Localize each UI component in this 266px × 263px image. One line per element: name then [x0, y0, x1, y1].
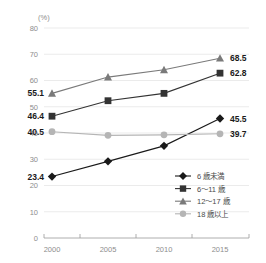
- legend-label-1: 6～11 歳: [197, 184, 226, 194]
- y-axis-tick-label: 30: [30, 155, 38, 164]
- data-point-marker-diamond: [160, 142, 168, 150]
- series-start-value-label: 23.4: [27, 172, 44, 182]
- legend-label-3: 18 歳以上: [197, 209, 229, 219]
- series-start-value-label: 46.4: [27, 111, 44, 121]
- x-axis-tick-label: 2000: [44, 245, 61, 254]
- data-point-marker-circle: [49, 128, 56, 135]
- x-axis-tick-label: 2005: [100, 245, 117, 254]
- data-point-marker-circle: [105, 132, 112, 139]
- data-point-marker-square: [49, 113, 56, 120]
- y-axis-tick-label: 10: [30, 208, 38, 217]
- data-point-marker-circle: [180, 211, 186, 217]
- data-point-marker-circle: [161, 131, 168, 138]
- y-axis-tick-label: 50: [30, 103, 38, 112]
- series-start-value-label: 55.1: [27, 88, 44, 98]
- series-line-1: [52, 73, 220, 116]
- data-point-marker-square: [161, 90, 168, 97]
- y-axis-tick-label: 70: [30, 50, 38, 59]
- line-chart: 01020304050607080(%)200020052010201523.4…: [0, 0, 266, 263]
- y-axis-tick-label: 80: [30, 24, 38, 33]
- series-line-2: [52, 58, 220, 93]
- data-point-marker-diamond: [48, 172, 56, 180]
- x-axis-tick-label: 2010: [156, 245, 173, 254]
- data-point-marker-square: [180, 185, 186, 191]
- x-axis-tick-label: 2015: [212, 245, 229, 254]
- data-point-marker-diamond: [104, 157, 112, 165]
- y-axis-tick-label: 0: [34, 234, 38, 243]
- series-line-3: [52, 132, 220, 136]
- data-point-marker-square: [217, 70, 224, 77]
- series-line-0: [52, 119, 220, 177]
- series-end-value-label: 62.8: [230, 68, 247, 78]
- data-point-marker-triangle: [216, 54, 224, 61]
- data-point-marker-diamond: [216, 114, 224, 122]
- data-point-marker-square: [105, 97, 112, 104]
- data-point-marker-circle: [217, 130, 224, 137]
- y-axis-unit-label: (%): [38, 13, 50, 22]
- series-end-value-label: 39.7: [230, 129, 247, 139]
- legend-label-2: 12～17 歳: [197, 196, 231, 206]
- data-point-marker-diamond: [179, 172, 187, 180]
- y-axis-tick-label: 60: [30, 76, 38, 85]
- series-end-value-label: 68.5: [230, 53, 247, 63]
- y-axis-tick-label: 20: [30, 181, 38, 190]
- chart-canvas: 01020304050607080(%)200020052010201523.4…: [0, 0, 266, 263]
- series-end-value-label: 45.5: [230, 114, 247, 124]
- series-start-value-label: 40.5: [27, 127, 44, 137]
- legend-label-0: 6 歳未満: [197, 171, 225, 181]
